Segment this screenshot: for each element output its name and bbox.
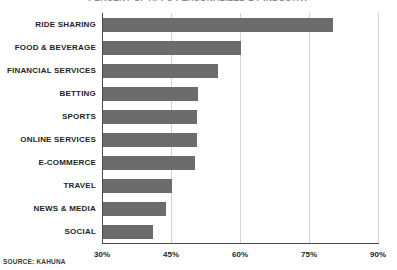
bar-fill	[103, 156, 195, 170]
bar	[103, 179, 172, 193]
bar-fill	[103, 179, 172, 193]
bar-fill	[103, 202, 166, 216]
bar-chart: PERCENT OF APPS PERSONALIZED BY INDUSTRY…	[0, 0, 397, 270]
category-label: ONLINE SERVICES	[0, 135, 96, 145]
bar-fill	[103, 110, 197, 124]
x-tick-label: 30%	[82, 250, 122, 259]
gridline	[309, 13, 310, 243]
chart-title: PERCENT OF APPS PERSONALIZED BY INDUSTRY	[0, 0, 397, 2]
bar-fill	[103, 87, 198, 101]
bar-fill	[103, 225, 153, 239]
bar	[103, 18, 333, 32]
bar	[103, 64, 218, 78]
category-label: BETTING	[0, 89, 96, 99]
category-label: TRAVEL	[0, 181, 96, 191]
bar	[103, 156, 195, 170]
bar-fill	[103, 18, 333, 32]
bar	[103, 87, 198, 101]
category-label: SOCIAL	[0, 227, 96, 237]
gridline	[378, 13, 379, 243]
bar	[103, 202, 166, 216]
category-label: FINANCIAL SERVICES	[0, 66, 96, 76]
category-label: NEWS & MEDIA	[0, 204, 96, 214]
bar	[103, 225, 153, 239]
bar-fill	[103, 133, 197, 147]
category-label: FOOD & BEVERAGE	[0, 43, 96, 53]
category-label: RIDE SHARING	[0, 20, 96, 30]
x-tick-label: 90%	[358, 250, 397, 259]
x-axis-line	[102, 243, 379, 244]
x-tick-label: 60%	[220, 250, 260, 259]
source-note: SOURCE: KAHUNA	[3, 258, 66, 265]
x-tick-label: 75%	[289, 250, 329, 259]
bar	[103, 133, 197, 147]
category-label: SPORTS	[0, 112, 96, 122]
bar	[103, 41, 241, 55]
bar-fill	[103, 41, 241, 55]
bar	[103, 110, 197, 124]
x-tick-label: 45%	[151, 250, 191, 259]
category-label: E-COMMERCE	[0, 158, 96, 168]
plot-area	[102, 13, 378, 243]
bar-fill	[103, 64, 218, 78]
